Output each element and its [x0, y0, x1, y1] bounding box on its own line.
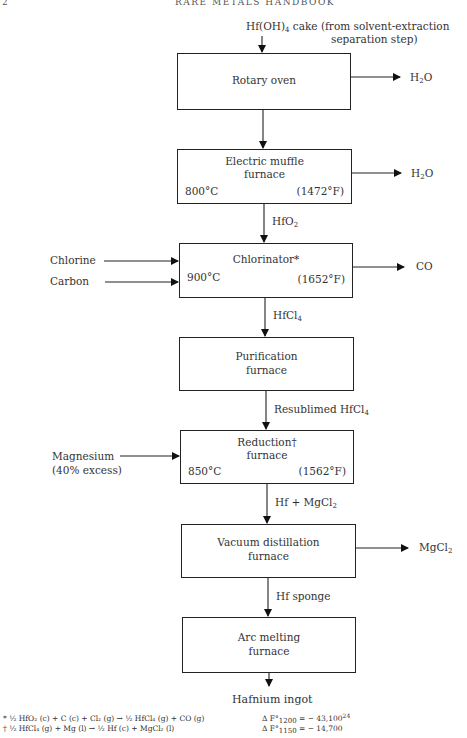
box-title-line1: Reduction† — [181, 436, 353, 449]
feed-input-label: Hf(OH)4 cake (from solvent-extraction — [246, 20, 449, 33]
output-label-h2o: H2O — [411, 167, 433, 180]
box-title-line1: Arc melting — [183, 631, 355, 644]
output-label-mgcl2: MgCl2 — [419, 541, 452, 554]
box-title-line2: furnace — [182, 550, 355, 563]
process-box-electric-muffle-furnace: Electric muffle furnace 800°C (1472°F) — [177, 149, 352, 204]
output-label-h2o: H2O — [410, 71, 432, 84]
box-title: Rotary oven — [178, 74, 350, 87]
intermediate-label-hf-mgcl2: Hf + MgCl2 — [275, 496, 337, 509]
output-label-co: CO — [416, 260, 433, 273]
temperature-celsius: 800°C — [185, 185, 218, 197]
box-title-line2: furnace — [181, 449, 353, 462]
box-title-line1: Vacuum distillation — [182, 536, 355, 549]
process-box-reduction-furnace: Reduction† furnace 850°C (1562°F) — [180, 430, 354, 484]
box-title-line1: Electric muffle — [178, 155, 351, 168]
box-title-line2: furnace — [178, 168, 351, 181]
box-title-line2: furnace — [180, 364, 353, 377]
temperature-fahrenheit: (1472°F) — [297, 185, 344, 197]
temperature-celsius: 900°C — [187, 271, 220, 283]
intermediate-label-hfo2: HfO2 — [272, 215, 298, 228]
temperature-fahrenheit: (1652°F) — [298, 273, 345, 285]
box-title-line2: furnace — [183, 645, 355, 658]
input-label-magnesium-excess: (40% excess) — [52, 464, 122, 477]
process-box-rotary-oven: Rotary oven — [177, 53, 351, 110]
input-label-carbon: Carbon — [50, 275, 89, 288]
footnote-reduction-free-energy: Δ F°1150 = − 14,700 — [262, 724, 343, 733]
temperature-fahrenheit: (1562°F) — [299, 465, 346, 477]
intermediate-label-hf-sponge: Hf sponge — [276, 590, 331, 603]
input-label-chlorine: Chlorine — [50, 254, 96, 267]
footnote-reduction-reaction: † ½ HfCl₄ (g) + Mg (l) → ½ Hf (c) + MgCl… — [3, 724, 174, 733]
footnote-chlorination-free-energy: Δ F°1200 = − 43,10024 — [262, 714, 350, 723]
box-title: Chlorinator* — [180, 253, 352, 266]
intermediate-label-hfcl4: HfCl4 — [273, 309, 302, 322]
process-box-arc-melting-furnace: Arc melting furnace — [182, 617, 356, 673]
box-title-line1: Purification — [180, 350, 353, 363]
process-box-purification-furnace: Purification furnace — [179, 337, 354, 391]
process-box-vacuum-distillation-furnace: Vacuum distillation furnace — [181, 524, 356, 578]
feed-input-label-line2: separation step) — [331, 33, 418, 46]
final-product-label: Hafnium ingot — [232, 693, 313, 706]
intermediate-label-resublimed-hfcl4: Resublimed HfCl4 — [274, 403, 369, 416]
process-box-chlorinator: Chlorinator* 900°C (1652°F) — [179, 243, 353, 298]
input-label-magnesium: Magnesium — [52, 450, 114, 463]
footnote-chlorination-reaction: * ½ HfO₂ (c) + C (c) + Cl₂ (g) → ½ HfCl₄… — [3, 714, 204, 723]
temperature-celsius: 850°C — [188, 465, 221, 477]
